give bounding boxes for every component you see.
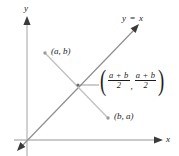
y-axis-label: y <box>24 4 28 13</box>
midpoint-formula: ( a + b 2 , a + b 2 ) <box>98 68 166 93</box>
line-equation-label: y = x <box>122 14 144 23</box>
point-ba-label: (b, a) <box>114 112 134 121</box>
formula-fraction-y-numerator: a + b <box>135 71 157 80</box>
point-ab-label: (a, b) <box>51 47 71 56</box>
point-marker-ba <box>106 116 109 119</box>
formula-close-paren: ) <box>158 68 164 93</box>
formula-comma: , <box>131 82 133 93</box>
formula-fraction-x: a + b 2 <box>108 71 130 90</box>
formula-fraction-y: a + b 2 <box>135 71 157 90</box>
formula-fraction-x-numerator: a + b <box>108 71 130 80</box>
formula-fraction-y-denominator: 2 <box>143 81 147 90</box>
coordinate-plane-figure: y x y = x (a, b) (b, a) ( a + b 2 , a + … <box>0 0 179 156</box>
formula-open-paren: ( <box>100 68 106 93</box>
midpoint-marker <box>76 83 79 86</box>
formula-fraction-x-denominator: 2 <box>117 81 121 90</box>
x-axis-label: x <box>166 135 170 144</box>
point-marker-ab <box>43 51 46 54</box>
y-axis-arrowhead <box>23 16 30 25</box>
x-axis-arrowhead <box>154 136 163 143</box>
